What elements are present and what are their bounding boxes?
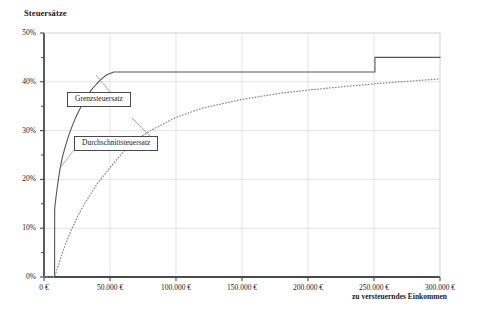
x-tick-label: 200.000 € bbox=[293, 283, 323, 292]
y-tick-label: 20% bbox=[10, 174, 36, 183]
y-tick-label: 10% bbox=[10, 223, 36, 232]
callout-grenzsteuersatz: Grenzsteuersatz bbox=[67, 92, 131, 107]
x-tick-label: 150.000 € bbox=[227, 283, 257, 292]
y-tick-label: 50% bbox=[10, 28, 36, 37]
x-tick-label: 0 € bbox=[39, 283, 48, 292]
x-tick-label: 50.000 € bbox=[97, 283, 123, 292]
x-tick-label: 300.000 € bbox=[425, 283, 455, 292]
x-axis-title: zu versteuerndes Einkommen bbox=[352, 292, 447, 301]
plot-area bbox=[0, 0, 478, 314]
tax-rate-chart: Steuersätze 0%10%20%30%40%50% 0 €50.000 … bbox=[0, 0, 478, 314]
y-tick-label: 30% bbox=[10, 126, 36, 135]
gridlines bbox=[44, 33, 440, 277]
axis-ticks bbox=[40, 33, 440, 281]
x-tick-label: 100.000 € bbox=[161, 283, 191, 292]
callout-durchschnittsteuersatz: Durchschnittsteuersatz bbox=[74, 136, 158, 151]
y-tick-label: 0% bbox=[10, 272, 36, 281]
y-tick-label: 40% bbox=[10, 77, 36, 86]
x-tick-label: 250.000 € bbox=[359, 283, 389, 292]
